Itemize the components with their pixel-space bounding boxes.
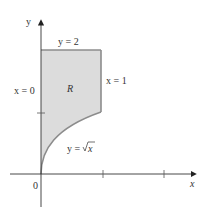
region-label: R [66, 83, 73, 94]
origin-label: 0 [33, 180, 38, 191]
region-diagram: y x 0 y = 2 x = 1 x = 0 R y = x [0, 0, 204, 217]
label-x-equals-0: x = 0 [14, 85, 35, 96]
label-curve-expr: x [87, 143, 93, 154]
label-x-equals-1: x = 1 [106, 75, 127, 86]
x-axis-label: x [189, 178, 195, 189]
label-y-equals-2: y = 2 [58, 36, 79, 47]
label-curve-prefix: y = [67, 143, 81, 154]
region-r [41, 50, 101, 174]
y-axis-label: y [26, 16, 31, 27]
